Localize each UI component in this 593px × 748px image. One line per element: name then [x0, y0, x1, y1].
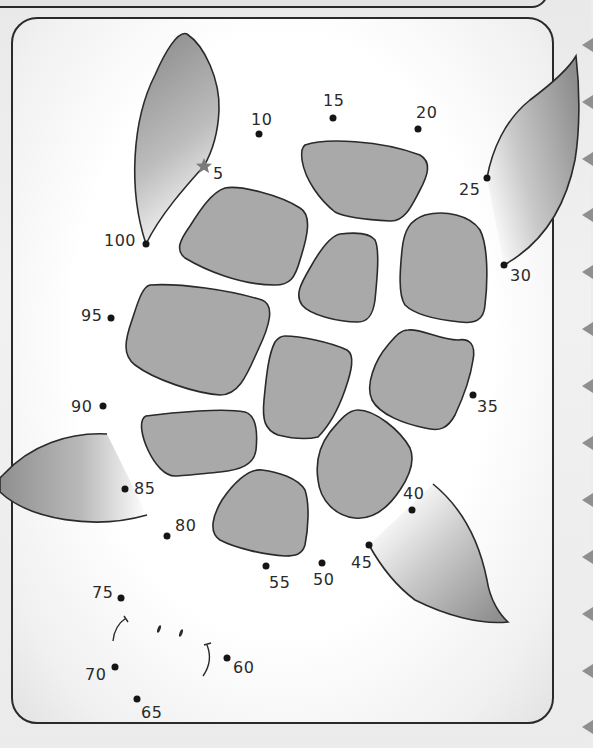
- dot-label-80: 80: [175, 518, 196, 534]
- dot-label-65: 65: [141, 705, 162, 721]
- shell-plate-8: [142, 410, 257, 476]
- dot-label-50: 50: [313, 572, 334, 588]
- dot-25[interactable]: [484, 175, 491, 182]
- dot-75[interactable]: [118, 595, 125, 602]
- dot-30[interactable]: [501, 262, 508, 269]
- dot-45[interactable]: [366, 542, 373, 549]
- dot-95[interactable]: [108, 315, 115, 322]
- dot-label-35: 35: [477, 399, 498, 415]
- dot-90[interactable]: [100, 403, 107, 410]
- dot-50[interactable]: [319, 560, 326, 567]
- dot-label-15: 15: [323, 93, 344, 109]
- page-edge-tab: [582, 436, 593, 450]
- dot-label-10: 10: [251, 112, 272, 128]
- shell-plate-7: [370, 330, 474, 430]
- dot-label-25: 25: [459, 182, 480, 198]
- dot-label-90: 90: [71, 399, 92, 415]
- dot-label-100: 100: [104, 233, 136, 249]
- dot-70[interactable]: [112, 664, 119, 671]
- turtle-eye-right: [178, 629, 184, 638]
- page-edge-tab: [582, 265, 593, 279]
- dot-85[interactable]: [122, 486, 129, 493]
- dot-label-5: 5: [213, 166, 224, 182]
- dot-15[interactable]: [330, 115, 337, 122]
- dot-label-20: 20: [416, 105, 437, 121]
- page-edge-tab: [582, 152, 593, 166]
- dot-label-85: 85: [134, 481, 155, 497]
- shell-plate-3: [299, 233, 378, 322]
- page-edge-tab: [582, 664, 593, 678]
- page-edge-tab: [582, 379, 593, 393]
- shell-plate-10: [213, 470, 308, 556]
- shell-plate-2: [180, 187, 308, 285]
- dot-label-40: 40: [403, 486, 424, 502]
- dot-label-55: 55: [269, 575, 290, 591]
- flipper-bottom-right: [369, 484, 508, 623]
- shell-plate-9: [317, 410, 412, 518]
- page-edge-tab: [582, 322, 593, 336]
- page-edge-tab: [582, 607, 593, 621]
- dot-60[interactable]: [224, 655, 231, 662]
- dot-65[interactable]: [134, 696, 141, 703]
- dot-label-95: 95: [81, 308, 102, 324]
- flipper-top-right: [487, 56, 579, 265]
- page-edge-tab: [582, 208, 593, 222]
- dot-label-30: 30: [510, 268, 531, 284]
- shell-plate-4: [400, 213, 487, 322]
- page-edge-tab: [582, 38, 593, 52]
- dot-label-45: 45: [351, 555, 372, 571]
- shell-plate-1: [302, 141, 428, 221]
- page-edge-tab: [582, 95, 593, 109]
- turtle-eye-left: [156, 625, 162, 634]
- dot-label-70: 70: [85, 667, 106, 683]
- head-stroke-left: [113, 616, 128, 641]
- dot-100[interactable]: [143, 241, 150, 248]
- shell-plate-5: [126, 285, 270, 395]
- dot-10[interactable]: [256, 131, 263, 138]
- dot-label-75: 75: [92, 585, 113, 601]
- dot-40[interactable]: [409, 507, 416, 514]
- dot-35[interactable]: [470, 392, 477, 399]
- page-edge-tab: [582, 720, 593, 734]
- page-edge-tabs: [578, 0, 591, 748]
- dot-20[interactable]: [415, 126, 422, 133]
- head-clue-strokes: [113, 616, 211, 676]
- dot-80[interactable]: [164, 533, 171, 540]
- head-stroke-right: [203, 643, 211, 676]
- flipper-left: [0, 434, 147, 522]
- page-edge-tab: [582, 550, 593, 564]
- page-edge-tab: [582, 493, 593, 507]
- dot-label-60: 60: [233, 660, 254, 676]
- dot-55[interactable]: [263, 563, 270, 570]
